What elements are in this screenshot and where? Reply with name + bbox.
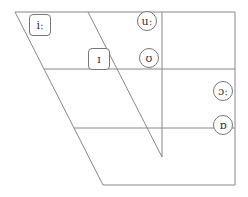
vowel-u-short: ʊ (139, 48, 159, 68)
vowel-u-long: uː (137, 11, 157, 31)
vowel-o-short: ɒ (213, 115, 233, 135)
vowel-i-short: ɪ (88, 48, 110, 70)
vowel-o-long: ɔː (213, 81, 233, 101)
vowel-chart: iː ɪ uː ʊ ɔː ɒ (0, 0, 248, 197)
vowel-i-long: iː (29, 14, 51, 36)
